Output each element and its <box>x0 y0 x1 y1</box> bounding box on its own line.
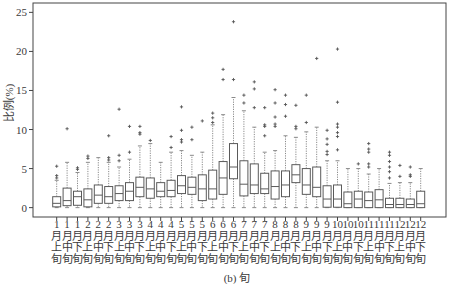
x-tick-month-number: 6 <box>210 218 216 230</box>
x-tick-period: 中 <box>342 241 353 253</box>
x-tick-month-number: 11 <box>384 218 395 230</box>
box <box>146 139 154 208</box>
y-tick-label: 25 <box>16 6 28 18</box>
box <box>240 94 248 208</box>
outlier-marker <box>336 148 339 151</box>
outlier-marker <box>180 129 183 132</box>
box <box>126 125 134 208</box>
outlier-marker <box>274 122 277 125</box>
x-tick-period-unit: 旬 <box>186 253 197 265</box>
outlier-marker <box>326 153 329 156</box>
outlier-marker <box>242 94 245 97</box>
iqr-box <box>271 171 279 199</box>
x-tick-month-number: 3 <box>127 218 133 230</box>
iqr-box <box>240 161 248 196</box>
x-tick-period-unit: 旬 <box>415 253 426 265</box>
x-tick-period: 下 <box>384 241 395 253</box>
x-tick-month-number: 8 <box>293 218 299 230</box>
outlier-marker <box>388 165 391 168</box>
x-tick-period-unit: 旬 <box>72 253 83 265</box>
box <box>105 134 113 207</box>
outlier-marker <box>107 156 110 159</box>
x-tick-month-number: 12 <box>415 218 426 230</box>
y-tick-label: 10 <box>16 124 28 136</box>
y-tick-label: 20 <box>16 45 28 57</box>
x-tick-period: 下 <box>197 241 208 253</box>
outlier-marker <box>263 106 266 109</box>
outlier-marker <box>398 164 401 167</box>
iqr-box <box>344 192 352 208</box>
x-tick-month-number: 1 <box>64 218 70 230</box>
box <box>406 165 414 207</box>
outlier-marker <box>274 101 277 104</box>
outlier-marker <box>211 112 214 115</box>
x-tick-period: 上 <box>114 241 125 253</box>
x-tick-period-unit: 旬 <box>353 253 364 265</box>
x-tick-month-number: 7 <box>252 218 258 230</box>
y-axis-label: 比例(%) <box>2 83 16 122</box>
iqr-box <box>178 176 186 194</box>
outlier-marker <box>222 68 225 71</box>
x-tick-period: 下 <box>166 241 177 253</box>
outlier-marker <box>326 150 329 153</box>
x-tick-period: 下 <box>322 241 333 253</box>
iqr-box <box>417 191 425 207</box>
x-tick-period: 下 <box>259 241 270 253</box>
box <box>209 112 217 208</box>
box <box>63 127 71 207</box>
outlier-marker <box>274 88 277 91</box>
x-tick-period-unit: 旬 <box>249 253 260 265</box>
outlier-marker <box>284 103 287 106</box>
box <box>157 162 165 207</box>
iqr-box <box>209 170 217 199</box>
box <box>334 47 342 207</box>
x-tick-period-unit: 旬 <box>218 253 229 265</box>
outlier-marker <box>118 108 121 111</box>
outlier-marker <box>388 170 391 173</box>
x-tick-period-unit: 旬 <box>145 253 156 265</box>
outlier-marker <box>170 146 173 149</box>
x-tick-month-number: 3 <box>137 218 143 230</box>
outlier-marker <box>388 151 391 154</box>
x-tick-month-number: 12 <box>394 218 405 230</box>
box <box>386 151 394 208</box>
x-tick-period-unit: 旬 <box>238 253 249 265</box>
iqr-box <box>63 188 71 206</box>
box <box>53 165 61 208</box>
iqr-box <box>157 183 165 197</box>
x-tick-month-number: 4 <box>168 218 174 230</box>
box <box>230 20 238 207</box>
outlier-marker <box>232 78 235 81</box>
y-axis: 0510152025 <box>16 6 33 213</box>
x-tick-period: 中 <box>374 241 385 253</box>
outlier-marker <box>284 94 287 97</box>
iqr-box <box>386 198 394 207</box>
x-tick-period-unit: 旬 <box>51 253 62 265</box>
x-tick-period: 上 <box>301 241 312 253</box>
x-tick-period: 中 <box>124 241 135 253</box>
box <box>94 158 102 208</box>
x-tick-period-unit: 旬 <box>166 253 177 265</box>
x-tick-month-number: 8 <box>272 218 278 230</box>
outlier-marker <box>180 138 183 141</box>
box <box>396 164 404 208</box>
x-tick-period-unit: 旬 <box>384 253 395 265</box>
x-tick-month-number: 1 <box>54 218 60 230</box>
x-tick-month-number: 3 <box>116 218 122 230</box>
box <box>74 166 82 207</box>
outlier-marker <box>305 94 308 97</box>
iqr-box <box>230 144 238 179</box>
x-tick-period: 下 <box>134 241 145 253</box>
x-tick-month-number: 5 <box>200 218 206 230</box>
x-tick-month-number: 5 <box>179 218 185 230</box>
outlier-marker <box>367 147 370 150</box>
outlier-marker <box>336 122 339 125</box>
outlier-marker <box>253 106 256 109</box>
iqr-box <box>375 190 383 208</box>
iqr-box <box>323 186 331 207</box>
box <box>188 126 196 208</box>
x-tick-period: 上 <box>332 241 343 253</box>
box <box>344 169 352 208</box>
x-tick-period-unit: 旬 <box>103 253 114 265</box>
outlier-marker <box>107 134 110 137</box>
